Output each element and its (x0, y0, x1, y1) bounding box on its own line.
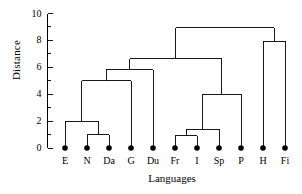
y-axis-tick-label: 2 (24, 115, 42, 126)
y-axis-tick-label: 10 (24, 8, 42, 19)
leaf-marker-P (238, 145, 244, 151)
leaf-marker-N (84, 145, 90, 151)
leaf-marker-H (260, 145, 266, 151)
leaf-label-Fi: Fi (270, 155, 300, 166)
y-axis-title: Distance (10, 18, 22, 102)
leaf-marker-Fr (172, 145, 178, 151)
leaf-marker-I (194, 145, 200, 151)
leaf-marker-Du (150, 145, 156, 151)
y-axis-tick-label: 8 (24, 34, 42, 45)
leaf-marker-Sp (216, 145, 222, 151)
y-axis-tick-label: 6 (24, 61, 42, 72)
leaf-marker-Da (106, 145, 112, 151)
leaf-marker-E (62, 145, 68, 151)
leaf-marker-G (128, 145, 134, 151)
leaf-marker-Fi (282, 145, 288, 151)
x-axis-title: Languages (47, 172, 297, 184)
y-axis-tick-label: 0 (24, 142, 42, 153)
y-axis-tick-label: 4 (24, 88, 42, 99)
